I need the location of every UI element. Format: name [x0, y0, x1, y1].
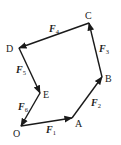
point-label-c: C [85, 10, 92, 21]
force-vectors [19, 23, 102, 126]
point-label-b: B [105, 73, 112, 84]
force-label-f6: F6 [17, 101, 29, 113]
force-label-f4: F4 [48, 23, 60, 35]
point-label-o: O [13, 128, 20, 139]
force-label-f1: F1 [45, 124, 56, 136]
force-label-f3: F3 [98, 43, 109, 55]
point-label-a: A [75, 118, 83, 129]
force-polygon-diagram: F1F2F3F4F5F6 OABCDE [0, 0, 121, 145]
point-label-e: E [43, 89, 49, 100]
point-label-d: D [6, 43, 13, 54]
force-label-f2: F2 [90, 97, 101, 109]
force-label-f5: F5 [15, 64, 26, 76]
